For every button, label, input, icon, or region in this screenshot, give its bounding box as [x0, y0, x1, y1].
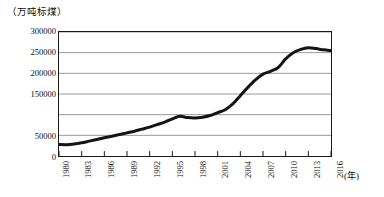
- x-axis-caption: (年): [344, 171, 359, 181]
- y-axis-unit-caption: （万吨标煤）: [7, 6, 67, 18]
- energy-consumption-chart: （万吨标煤） 050000150000200000250000300000 19…: [0, 0, 384, 197]
- plot-area: [58, 31, 332, 157]
- x-tick-label: 2001: [221, 161, 230, 178]
- x-tick-label: 1980: [62, 161, 71, 178]
- x-tick-label: 2004: [244, 161, 253, 178]
- x-tick-label: 1989: [130, 161, 139, 178]
- gridlines: [59, 32, 331, 135]
- x-tick-marks: [59, 151, 331, 156]
- x-tick-label: 1983: [84, 161, 93, 178]
- x-axis-tick-labels: 1980198319861989199219951998200120042007…: [58, 157, 332, 197]
- x-tick-label: 1986: [107, 161, 116, 178]
- plot-svg: [59, 32, 331, 156]
- y-tick-label: 150000: [2, 90, 56, 99]
- y-axis-tick-labels: 050000150000200000250000300000: [0, 31, 56, 157]
- x-tick-label: 2007: [267, 161, 276, 178]
- y-tick-label: 200000: [2, 69, 56, 78]
- x-tick-label: 1995: [176, 161, 185, 178]
- y-tick-label: 250000: [2, 48, 56, 57]
- y-tick-label: 300000: [2, 27, 56, 36]
- x-tick-label: 2013: [313, 161, 322, 178]
- x-tick-label: 1998: [199, 161, 208, 178]
- x-tick-label: 1992: [153, 161, 162, 178]
- x-tick-label: 2010: [290, 161, 299, 178]
- y-tick-label: 50000: [2, 132, 56, 141]
- series-line-energy-consumption: [59, 48, 331, 145]
- y-tick-label: 0: [2, 153, 56, 162]
